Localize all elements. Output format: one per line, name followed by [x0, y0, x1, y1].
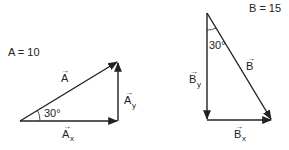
component-ay-subscript: y	[132, 101, 136, 110]
vector-diagram: A = 10 30° A → A x → A y → B = 15 30° B …	[0, 0, 289, 150]
component-bx-overarrow: →	[235, 122, 243, 131]
vector-b-group: B = 15 30° B → B y → B x →	[189, 2, 281, 143]
component-ay-overarrow: →	[125, 88, 133, 97]
vector-b-arrow	[207, 13, 271, 119]
component-ax-overarrow: →	[63, 122, 71, 131]
magnitude-b-label: B = 15	[249, 2, 281, 14]
component-ax-subscript: x	[70, 134, 74, 143]
magnitude-a-label: A = 10	[8, 46, 40, 58]
component-bx-subscript: x	[242, 134, 246, 143]
angle-arc-b	[207, 28, 216, 30]
angle-b-label: 30°	[209, 39, 226, 51]
vector-a-group: A = 10 30° A → A x → A y →	[8, 46, 136, 143]
vector-a-overarrow: →	[61, 66, 69, 75]
vector-b-overarrow: →	[247, 54, 255, 63]
angle-a-label: 30°	[44, 107, 61, 119]
angle-arc-a	[38, 111, 41, 122]
component-by-overarrow: →	[190, 67, 198, 76]
component-by-subscript: y	[197, 80, 201, 89]
